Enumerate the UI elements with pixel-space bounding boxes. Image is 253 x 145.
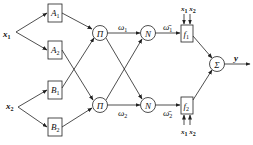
svg-text:Π: Π [96,29,104,39]
svg-text:x1 x2: x1 x2 [180,128,196,137]
node-A2: A2 [48,41,62,59]
node-pi-2: Π [93,98,108,113]
node-f2: f2 [181,97,193,114]
svg-text:ω2: ω2 [118,108,127,119]
svg-text:Σ: Σ [213,60,220,70]
label-wbar1: ω̄1 [163,22,172,33]
svg-text:ω̄1: ω̄1 [163,22,172,33]
node-sum: Σ [210,57,225,72]
anfis-diagram: x1 x2 A1 A2 B1 B2 Π Π ω1 [0,0,253,145]
svg-text:ω1: ω1 [118,22,127,33]
node-B2: B2 [48,118,62,136]
label-w2: ω2 [118,108,127,119]
f1-inputs-label: x1 x2 [180,5,196,14]
svg-text:y: y [233,53,239,63]
svg-text:N: N [144,101,152,111]
label-w1: ω1 [118,22,127,33]
svg-text:Π: Π [96,101,104,111]
node-pi-1: Π [93,26,108,41]
svg-text:N: N [144,29,152,39]
node-B1: B1 [48,81,62,99]
f2-inputs-label: x1 x2 [180,128,196,137]
label-wbar2: ω̄2 [163,108,172,119]
svg-text:x1: x1 [2,29,11,40]
node-n-1: N [141,26,156,41]
input-x2: x2 [5,101,14,112]
input-x1: x1 [2,29,11,40]
node-n-2: N [141,98,156,113]
svg-text:x2: x2 [5,101,14,112]
svg-text:x1 x2: x1 x2 [180,5,196,14]
output-y: y [233,53,239,63]
node-f1: f1 [181,25,193,42]
node-A1: A1 [48,4,62,22]
svg-text:ω̄2: ω̄2 [163,108,172,119]
